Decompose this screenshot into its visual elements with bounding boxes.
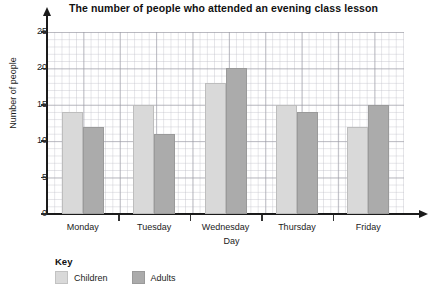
bar-thursday-adults xyxy=(297,112,318,214)
x-axis-title: Day xyxy=(0,236,433,246)
y-tick-label-5: 5 xyxy=(17,172,47,182)
chart-container: The number of people who attended an eve… xyxy=(0,0,433,298)
bar-thursday-children xyxy=(276,105,297,214)
x-tick-label-tuesday: Tuesday xyxy=(114,222,194,232)
bar-wednesday-adults xyxy=(226,68,247,214)
bar-tuesday-adults xyxy=(154,134,175,214)
y-tick-label-15: 15 xyxy=(17,99,47,109)
bar-tuesday-children xyxy=(133,105,154,214)
y-tick-label-25: 25 xyxy=(17,26,47,36)
y-tick-label-20: 20 xyxy=(17,62,47,72)
bar-wednesday-children xyxy=(205,83,226,214)
bar-monday-children xyxy=(62,112,83,214)
x-tick-3 xyxy=(261,215,263,221)
x-tick-2 xyxy=(190,215,192,221)
x-tick-label-wednesday: Wednesday xyxy=(186,222,266,232)
bar-friday-adults xyxy=(368,105,389,214)
legend-swatch-children xyxy=(55,271,68,284)
legend-label-adults: Adults xyxy=(151,273,176,283)
y-axis-title: Number of people xyxy=(8,28,18,158)
bar-friday-children xyxy=(347,127,368,214)
x-tick-label-monday: Monday xyxy=(43,222,123,232)
x-axis-arrow-icon xyxy=(419,210,428,218)
chart-title: The number of people who attended an eve… xyxy=(0,2,433,14)
bars-layer xyxy=(47,32,404,214)
legend-item-children: Children xyxy=(55,271,108,284)
legend-item-adults: Adults xyxy=(132,271,176,284)
legend: Key ChildrenAdults xyxy=(55,256,176,284)
x-tick-4 xyxy=(333,215,335,221)
legend-title: Key xyxy=(55,256,176,267)
bar-monday-adults xyxy=(83,127,104,214)
legend-swatch-adults xyxy=(132,271,145,284)
x-tick-label-thursday: Thursday xyxy=(257,222,337,232)
x-tick-1 xyxy=(118,215,120,221)
legend-items: ChildrenAdults xyxy=(55,271,176,284)
y-tick-label-0: 0 xyxy=(17,208,47,218)
y-tick-label-10: 10 xyxy=(17,135,47,145)
legend-label-children: Children xyxy=(74,273,108,283)
x-tick-label-friday: Friday xyxy=(328,222,408,232)
